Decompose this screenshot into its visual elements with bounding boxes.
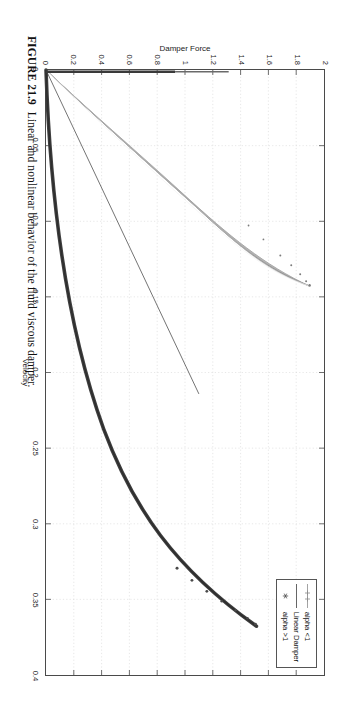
ytick-2: 2 bbox=[321, 45, 330, 65]
ytick-0.6: 0.6 bbox=[125, 45, 134, 65]
legend-item-alpha-lt-1: alpha <1 bbox=[302, 583, 313, 662]
ytick-0: 0 bbox=[41, 45, 50, 65]
figure-number: FIGURE 21.9 bbox=[26, 36, 38, 105]
chart-plot-area: alpha <1 Linear Damper alpha >1 bbox=[45, 69, 325, 676]
legend-marker-star-icon bbox=[281, 583, 290, 609]
series-linear-damper bbox=[46, 70, 199, 394]
legend-marker-line-icon bbox=[292, 583, 301, 609]
y-axis-label: Damper Force bbox=[159, 44, 210, 53]
figure-caption-text: Linear and nonlinear behavior of the flu… bbox=[26, 112, 38, 388]
chart-axes-frame: alpha <1 Linear Damper alpha >1 bbox=[45, 69, 325, 676]
ytick-1.8: 1.8 bbox=[293, 45, 302, 65]
figure-container: alpha <1 Linear Damper alpha >1 bbox=[0, 0, 343, 709]
ytick-1.4: 1.4 bbox=[237, 45, 246, 65]
legend-marker-plus-icon bbox=[303, 583, 312, 609]
ytick-0.2: 0.2 bbox=[69, 45, 78, 65]
chart-legend: alpha <1 Linear Damper alpha >1 bbox=[276, 579, 317, 668]
legend-label-alpha-gt-1: alpha >1 bbox=[281, 612, 290, 641]
rotated-page-stage: alpha <1 Linear Damper alpha >1 bbox=[0, 0, 343, 709]
series-alpha-lt-1 bbox=[46, 70, 311, 286]
ytick-1.6: 1.6 bbox=[265, 45, 274, 65]
legend-label-alpha-lt-1: alpha <1 bbox=[303, 612, 312, 641]
figure-caption: FIGURE 21.9Linear and nonlinear behavior… bbox=[26, 36, 38, 676]
ytick-0.4: 0.4 bbox=[97, 45, 106, 65]
series-alpha-gt-1 bbox=[46, 70, 257, 626]
legend-label-linear-damper: Linear Damper bbox=[292, 612, 301, 662]
legend-item-alpha-gt-1: alpha >1 bbox=[280, 583, 291, 662]
legend-item-linear-damper: Linear Damper bbox=[291, 583, 302, 662]
